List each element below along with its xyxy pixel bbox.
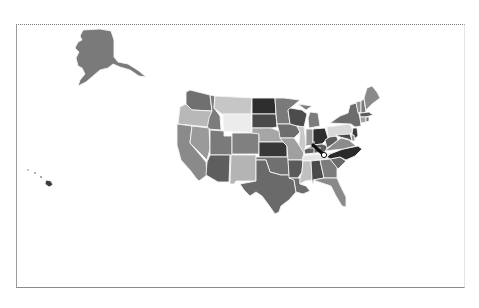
state-MA[interactable] <box>360 112 373 117</box>
state-RI[interactable] <box>366 117 369 122</box>
state-SD[interactable] <box>252 114 277 128</box>
state-HI-island-2 <box>34 172 36 174</box>
state-ND[interactable] <box>252 98 276 114</box>
state-ME[interactable] <box>364 86 380 110</box>
state-IN[interactable] <box>305 129 313 146</box>
us-choropleth-map[interactable] <box>0 0 479 308</box>
state-CO[interactable] <box>232 133 259 154</box>
state-MT[interactable] <box>214 96 252 114</box>
state-HI-island-3 <box>40 176 42 178</box>
state-AK[interactable] <box>75 29 146 86</box>
state-FL[interactable] <box>313 178 346 207</box>
state-AZ[interactable] <box>206 155 230 182</box>
state-HI-island-1 <box>27 169 29 171</box>
state-UT[interactable] <box>210 130 232 155</box>
state-KS[interactable] <box>259 142 287 157</box>
state-WY[interactable] <box>223 114 251 132</box>
state-HI[interactable] <box>45 180 53 187</box>
state-NY[interactable] <box>330 103 361 127</box>
state-CT[interactable] <box>360 117 366 123</box>
state-WI[interactable] <box>288 108 307 127</box>
state-NM[interactable] <box>230 155 256 184</box>
